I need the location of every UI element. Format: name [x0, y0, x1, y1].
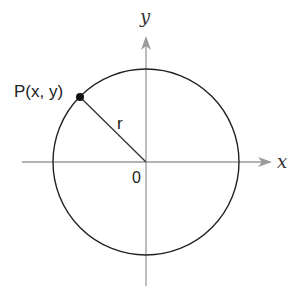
radius-line — [80, 97, 146, 162]
y-axis-label: y — [139, 6, 151, 27]
radius-label: r — [117, 114, 123, 133]
circle-diagram: P(x, y) r 0 x y — [0, 0, 295, 289]
point-p — [76, 93, 84, 101]
x-axis-label: x — [277, 151, 287, 172]
origin-label: 0 — [132, 169, 141, 186]
point-p-label: P(x, y) — [14, 82, 63, 101]
